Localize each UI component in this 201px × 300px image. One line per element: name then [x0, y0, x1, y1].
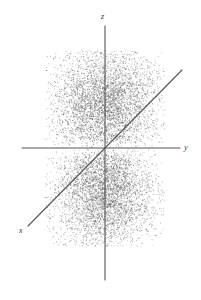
axis-lines: [22, 26, 182, 280]
scatter-plot-canvas: [0, 0, 201, 300]
x-axis-label: x: [19, 227, 23, 235]
orbital-density-figure: z y x: [0, 0, 201, 300]
y-axis-label: y: [184, 144, 188, 152]
z-axis-label: z: [101, 13, 104, 21]
